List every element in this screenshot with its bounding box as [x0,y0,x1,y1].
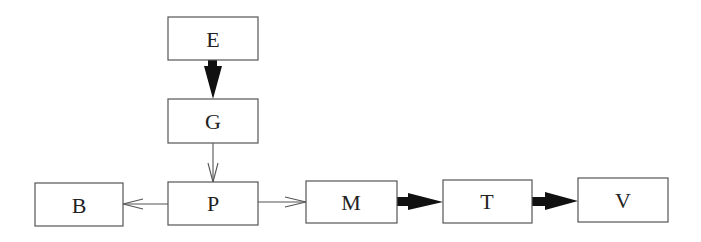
thick-arrow-icon [204,60,222,99]
node-label: G [205,109,221,134]
node-b[interactable]: B [35,183,123,226]
thick-arrow-icon [397,193,443,210]
edge-e-to-g [204,60,222,99]
node-p[interactable]: P [168,182,258,225]
edge-m-to-t [397,193,443,210]
edge-p-to-b [123,199,168,209]
node-g[interactable]: G [168,99,258,143]
node-e[interactable]: E [168,17,258,60]
nodes: E G B P M T V [35,17,668,226]
node-label: E [206,27,219,52]
node-label: M [341,190,361,215]
node-label: V [615,188,631,213]
node-m[interactable]: M [306,181,397,223]
edge-p-to-m [258,197,306,207]
node-label: B [72,193,87,218]
node-v[interactable]: V [578,178,668,222]
thick-arrow-icon [532,192,578,210]
node-label: T [480,189,494,214]
flow-diagram: E G B P M T V [0,0,701,242]
node-label: P [207,191,219,216]
edge-g-to-p [208,143,218,182]
edge-t-to-v [532,192,578,210]
node-t[interactable]: T [443,180,532,223]
